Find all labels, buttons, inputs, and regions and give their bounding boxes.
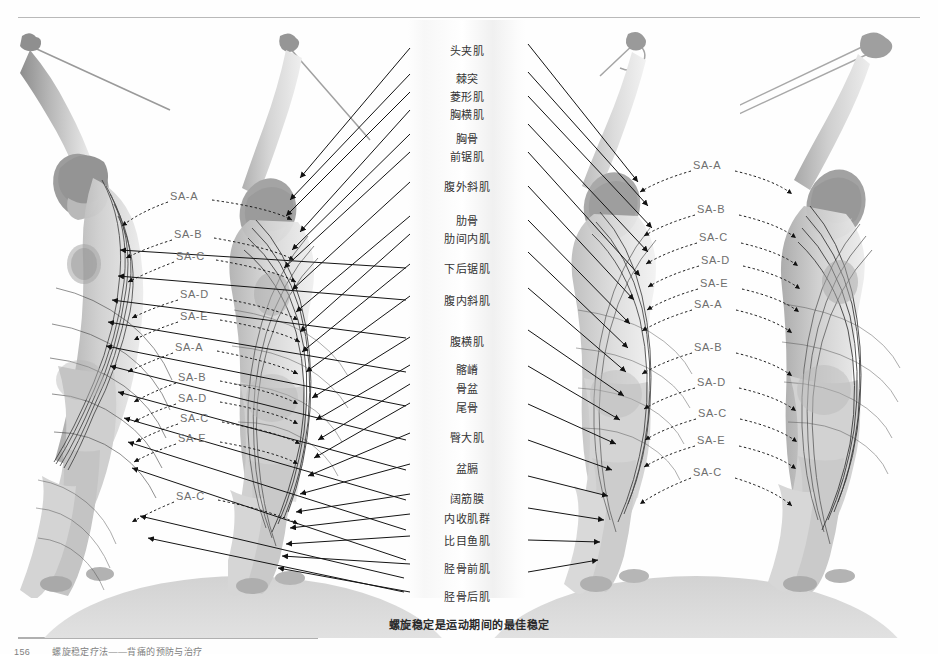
muscle-label: 盆膈 [408, 460, 526, 476]
sa-label: SA-E [700, 277, 728, 289]
figure-far-right-side [740, 28, 930, 598]
sa-label: SA-E [178, 432, 206, 444]
muscle-label: 前锯肌 [408, 148, 526, 164]
muscle-label: 肋间内肌 [408, 230, 526, 246]
sa-label: SA-A [175, 341, 203, 353]
muscle-label: 菱形肌 [408, 88, 526, 104]
top-rule [18, 17, 920, 18]
muscle-label: 比目鱼肌 [408, 532, 526, 548]
sa-label: SA-C [699, 231, 728, 243]
muscle-label: 骨盆 [408, 380, 526, 396]
sa-label: SA-D [697, 376, 726, 388]
muscle-label: 阔筋膜 [408, 490, 526, 506]
sa-label: SA-C [176, 490, 205, 502]
muscle-label: 尾骨 [408, 399, 526, 415]
sa-label: SA-D [180, 288, 209, 300]
sa-label: SA-D [178, 392, 207, 404]
muscle-label: 髂嵴 [408, 361, 526, 377]
muscle-label: 胸横肌 [408, 106, 526, 122]
muscle-label: 臀大肌 [408, 429, 526, 445]
figure-center-front-view [228, 30, 418, 598]
muscle-label: 胫骨前肌 [408, 560, 526, 576]
muscle-label: 棘突 [408, 70, 526, 86]
sa-label: SA-B [694, 341, 722, 353]
sa-label: SA-B [174, 228, 202, 240]
sa-label: SA-C [176, 250, 205, 262]
figure-right-back-view [540, 28, 730, 598]
muscle-label: 腹横肌 [408, 333, 526, 349]
sa-label: SA-A [693, 159, 721, 171]
muscle-label: 腹内斜肌 [408, 292, 526, 308]
footer-title: 螺旋稳定疗法——背痛的预防与治疗 [52, 647, 202, 657]
page-number: 156 [14, 647, 30, 657]
sa-label: SA-A [694, 298, 722, 310]
sa-label: SA-E [697, 434, 725, 446]
muscle-label: 肋骨 [408, 212, 526, 228]
sa-label: SA-C [693, 466, 722, 478]
sa-label: SA-B [697, 203, 725, 215]
muscle-label: 胸骨 [408, 130, 526, 146]
sa-label: SA-D [701, 254, 730, 266]
sa-label: SA-A [170, 190, 198, 202]
muscle-label: 下后锯肌 [408, 260, 526, 276]
figure-caption: 螺旋稳定是运动期间的最佳稳定 [0, 616, 938, 632]
sa-label: SA-B [178, 371, 206, 383]
muscle-label: 胫骨后肌 [408, 588, 526, 604]
muscle-label: 内收肌群 [408, 510, 526, 526]
footer: 156螺旋稳定疗法——背痛的预防与治疗 [14, 645, 203, 658]
muscle-label: 头夹肌 [408, 42, 526, 58]
sa-label: SA-C [698, 407, 727, 419]
muscle-label: 腹外斜肌 [408, 178, 526, 194]
center-label-column: 头夹肌棘突菱形肌胸横肌胸骨前锯肌腹外斜肌肋骨肋间内肌下后锯肌腹内斜肌腹横肌髂嵴骨… [408, 20, 526, 598]
sa-label: SA-C [180, 412, 209, 424]
sa-label: SA-E [180, 310, 208, 322]
